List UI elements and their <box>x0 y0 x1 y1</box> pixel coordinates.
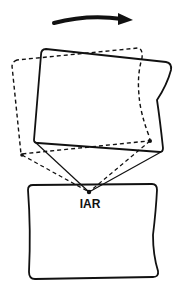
rotation-arrow-icon <box>54 13 133 25</box>
iar-diagram: IAR <box>0 0 177 289</box>
iar-point <box>87 190 91 194</box>
upper-body-dashed <box>12 48 150 154</box>
upper-body-solid <box>34 49 171 152</box>
iar-label: IAR <box>80 197 101 211</box>
